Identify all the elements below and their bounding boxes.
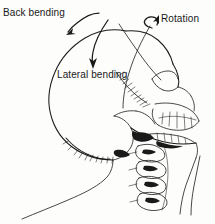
maxilla-upper-teeth bbox=[152, 103, 199, 130]
skull-cervical-spine-drawing bbox=[0, 0, 215, 224]
label-back-bending: Back bending bbox=[3, 7, 65, 18]
lateral-bending-arrow bbox=[89, 20, 108, 69]
mandible-lower-teeth bbox=[114, 128, 198, 158]
back-bending-arrow bbox=[66, 13, 99, 35]
rotation-arrow bbox=[119, 15, 161, 108]
frontal-orbit-nasal bbox=[152, 64, 194, 111]
label-lateral-bending: Lateral bending bbox=[57, 69, 127, 80]
anatomy-figure: Back bending Rotation Lateral bending bbox=[0, 0, 215, 224]
label-rotation: Rotation bbox=[161, 13, 199, 24]
neck-contour bbox=[22, 156, 200, 219]
occiput-hatching bbox=[63, 138, 113, 163]
temporal-zygomatic-region bbox=[113, 72, 155, 160]
